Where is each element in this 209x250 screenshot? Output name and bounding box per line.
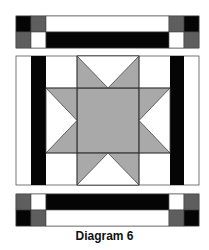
bottom-strip-square [169,194,184,210]
bottom-strip-square [184,194,199,210]
bottom-strip-bar-black [46,194,169,210]
top-strip-square [31,32,46,48]
bottom-strip-square [31,194,46,210]
left-black-bar [31,56,46,185]
quilt-diagram [0,0,209,250]
bottom-strip-square [31,210,46,226]
top-border-strip [16,16,199,48]
top-strip-square [169,32,184,48]
right-black-bar [170,56,184,185]
top-strip-square [16,16,31,32]
top-strip-square [169,16,184,32]
top-strip-bar-black [46,32,169,48]
center-star-block [16,56,199,185]
star-point-bottom [77,153,139,185]
top-strip-square [16,32,31,48]
bottom-border-strip [16,194,199,226]
top-strip-bar-white [46,16,169,32]
star-center-square [77,88,139,153]
bottom-strip-bar-white [46,210,169,226]
star-point-top [77,56,139,88]
diagram-caption: Diagram 6 [0,229,209,243]
bottom-strip-square [16,194,31,210]
bottom-strip-square [16,210,31,226]
star-point-left [46,88,77,153]
bottom-strip-square [169,210,184,226]
top-strip-square [184,16,199,32]
bottom-strip-square [184,210,199,226]
top-strip-square [184,32,199,48]
star-point-right [139,88,170,153]
top-strip-square [31,16,46,32]
